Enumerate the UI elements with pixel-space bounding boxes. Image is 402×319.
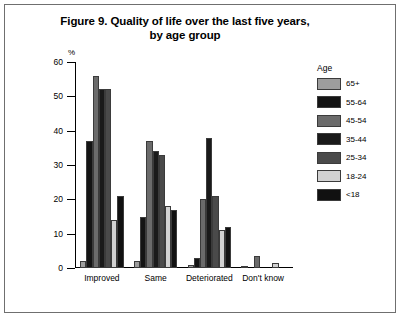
legend-swatch [317, 170, 341, 182]
legend-label: 45-54 [346, 116, 366, 125]
legend-swatch [317, 133, 341, 145]
legend-swatch [317, 96, 341, 108]
y-tick-mark [67, 96, 75, 97]
bar-group [134, 62, 177, 268]
plot-area [75, 62, 290, 268]
bar-group [80, 62, 123, 268]
legend-swatch [317, 78, 341, 90]
bar-group [241, 62, 284, 268]
y-tick-label: 30 [45, 160, 63, 170]
legend-rows: 65+55-6445-5435-4425-3418-24<18 [317, 77, 395, 201]
legend-swatch [317, 189, 341, 201]
y-tick-mark [67, 234, 75, 235]
y-tick-label: 60 [45, 57, 63, 67]
legend-swatch [317, 115, 341, 127]
bar [241, 266, 247, 268]
legend-item: 55-64 [317, 96, 395, 109]
y-tick-label: 10 [45, 229, 63, 239]
y-tick-mark [67, 165, 75, 166]
y-tick-label: 40 [45, 126, 63, 136]
legend-item: 18-24 [317, 170, 395, 183]
page-title: Figure 9. Quality of life over the last … [35, 14, 335, 42]
bar-groups [75, 62, 290, 268]
bar [225, 227, 231, 268]
y-tick-mark [67, 268, 75, 269]
legend-item: 65+ [317, 77, 395, 90]
y-tick-label: 0 [45, 263, 63, 273]
title-line-2: by age group [35, 28, 335, 42]
y-tick-mark [67, 62, 75, 63]
legend-item: 45-54 [317, 114, 395, 127]
legend-item: 25-34 [317, 151, 395, 164]
figure-frame: Figure 9. Quality of life over the last … [4, 4, 396, 313]
legend-label: 55-64 [346, 98, 366, 107]
legend-swatch [317, 152, 341, 164]
bar [117, 196, 123, 268]
legend-label: 65+ [346, 79, 360, 88]
legend-title: Age [317, 63, 395, 73]
legend-item: 35-44 [317, 133, 395, 146]
y-tick-label: 50 [45, 91, 63, 101]
bar [171, 210, 177, 268]
legend-label: 35-44 [346, 135, 366, 144]
bar [254, 256, 260, 268]
legend-label: 25-34 [346, 153, 366, 162]
bar [272, 263, 278, 268]
x-axis-label: Don't know [223, 273, 303, 283]
y-tick-label: 20 [45, 194, 63, 204]
y-axis-unit-label: % [68, 48, 75, 57]
title-line-1: Figure 9. Quality of life over the last … [60, 15, 309, 27]
y-tick-mark [67, 131, 75, 132]
legend-label: 18-24 [346, 172, 366, 181]
y-tick-mark [67, 199, 75, 200]
legend-item: <18 [317, 188, 395, 201]
bar-group [188, 62, 231, 268]
legend: Age 65+55-6445-5435-4425-3418-24<18 [317, 63, 395, 207]
legend-label: <18 [346, 190, 360, 199]
